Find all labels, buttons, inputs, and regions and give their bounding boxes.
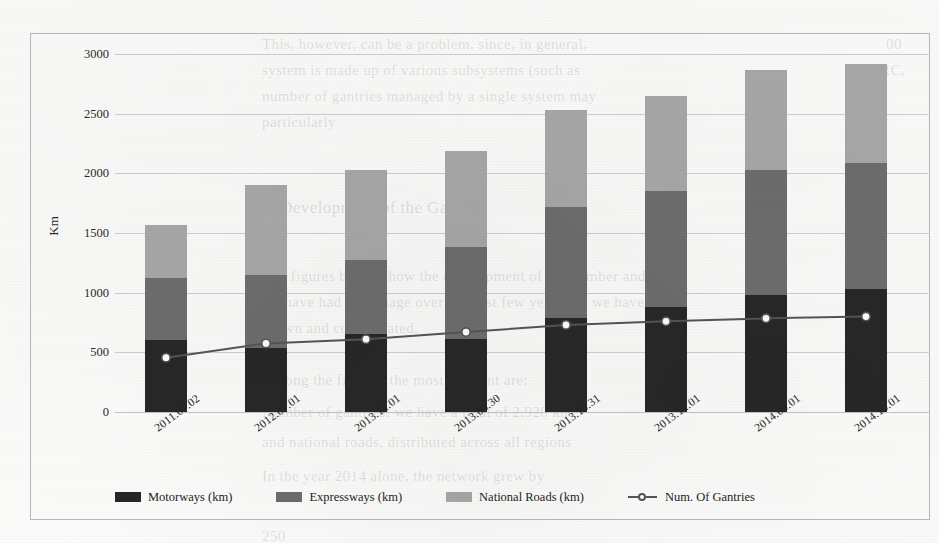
y-axis-tick-label: 2500 bbox=[53, 106, 109, 121]
legend-item[interactable]: Expressways (km) bbox=[276, 490, 402, 505]
gantries-data-point[interactable] bbox=[162, 354, 170, 362]
y-axis-tick-label: 3000 bbox=[53, 47, 109, 62]
legend-line-marker-icon bbox=[628, 492, 658, 502]
gantries-data-point[interactable] bbox=[262, 339, 270, 347]
x-axis-tick-labels: 2011.07.022012.07.012013.12.012013.03.30… bbox=[115, 418, 930, 478]
plot-area bbox=[115, 54, 930, 412]
gantries-data-point[interactable] bbox=[762, 314, 770, 322]
gantries-data-point[interactable] bbox=[362, 335, 370, 343]
legend-label: Num. Of Gantries bbox=[665, 490, 755, 505]
legend-item[interactable]: National Roads (km) bbox=[446, 490, 584, 505]
y-axis-tick-label: 500 bbox=[53, 345, 109, 360]
legend-label: National Roads (km) bbox=[479, 490, 584, 505]
legend-swatch bbox=[276, 492, 302, 502]
ghost-text-line: 250 bbox=[262, 528, 286, 543]
gantries-line-path bbox=[166, 317, 866, 358]
gantries-data-point[interactable] bbox=[662, 317, 670, 325]
y-axis-tick-label: 1000 bbox=[53, 285, 109, 300]
y-axis-tick-label: 1500 bbox=[53, 226, 109, 241]
chart-legend: Motorways (km)Expressways (km)National R… bbox=[115, 486, 915, 508]
legend-swatch bbox=[115, 492, 141, 502]
gantries-data-point[interactable] bbox=[562, 321, 570, 329]
y-axis-tick-labels: 300025002000150010005000 bbox=[49, 54, 109, 412]
gantries-data-point[interactable] bbox=[862, 312, 870, 320]
legend-item[interactable]: Num. Of Gantries bbox=[628, 490, 755, 505]
legend-item[interactable]: Motorways (km) bbox=[115, 490, 232, 505]
legend-swatch bbox=[446, 492, 472, 502]
legend-label: Motorways (km) bbox=[148, 490, 232, 505]
gantries-line-series bbox=[115, 54, 930, 412]
y-axis-tick-label: 0 bbox=[53, 405, 109, 420]
y-axis-tick-label: 2000 bbox=[53, 166, 109, 181]
legend-label: Expressways (km) bbox=[309, 490, 402, 505]
gantries-data-point[interactable] bbox=[462, 328, 470, 336]
gridline bbox=[115, 412, 930, 413]
